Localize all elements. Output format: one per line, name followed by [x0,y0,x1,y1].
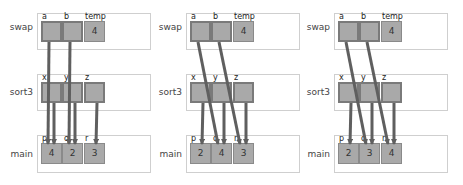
cell-x [190,82,211,103]
var-b: b [213,13,218,21]
frame-label-sort3: sort3 [297,87,330,97]
cell-y [359,82,380,103]
frame-label-swap: swap [149,22,182,32]
var-r: r [382,135,385,143]
var-y: y [361,74,366,82]
cell-r: 3 [84,143,105,164]
var-r: r [85,135,88,143]
cell-p: 2 [338,143,359,164]
var-a: a [339,13,344,21]
cell-q: 2 [62,143,83,164]
var-b: b [361,13,366,21]
cell-p: 4 [41,143,62,164]
frame-label-swap: swap [0,22,33,32]
cell-q: 3 [359,143,380,164]
var-y: y [64,74,69,82]
var-z: z [382,74,386,82]
cell-b [211,21,232,42]
frame-label-main: main [149,149,182,159]
var-r: r [234,135,237,143]
panel-2: swap a b temp 4 sort3 x y z main p q r 2… [149,0,299,185]
var-x: x [339,74,344,82]
cell-r: 4 [381,143,402,164]
var-temp: temp [234,13,255,21]
cell-a [41,21,62,42]
cell-x [41,82,62,103]
var-z: z [85,74,89,82]
cell-q: 4 [211,143,232,164]
frame-label-main: main [0,149,33,159]
cell-z [381,82,402,103]
frame-label-main: main [297,149,330,159]
var-x: x [42,74,47,82]
cell-y [62,82,83,103]
cell-b [359,21,380,42]
cell-temp: 4 [233,21,254,42]
cell-z [84,82,105,103]
cell-temp: 4 [84,21,105,42]
cell-b [62,21,83,42]
panel-3: swap a b temp 4 sort3 x y z main p q r 2… [297,0,447,185]
cell-a [338,21,359,42]
var-p: p [42,135,47,143]
var-y: y [213,74,218,82]
cell-y [211,82,232,103]
var-q: q [361,135,366,143]
cell-p: 2 [190,143,211,164]
var-x: x [191,74,196,82]
var-temp: temp [382,13,403,21]
frame-label-sort3: sort3 [0,87,33,97]
var-z: z [234,74,238,82]
var-p: p [191,135,196,143]
frame-label-sort3: sort3 [149,87,182,97]
cell-a [190,21,211,42]
var-p: p [339,135,344,143]
cell-z [233,82,254,103]
cell-temp: 4 [381,21,402,42]
frame-label-swap: swap [297,22,330,32]
var-q: q [213,135,218,143]
cell-x [338,82,359,103]
var-q: q [64,135,69,143]
var-a: a [42,13,47,21]
var-a: a [191,13,196,21]
var-temp: temp [85,13,106,21]
var-b: b [64,13,69,21]
panel-1: swap a b temp 4 sort3 x y z main p q r 4… [0,0,150,185]
cell-r: 3 [233,143,254,164]
